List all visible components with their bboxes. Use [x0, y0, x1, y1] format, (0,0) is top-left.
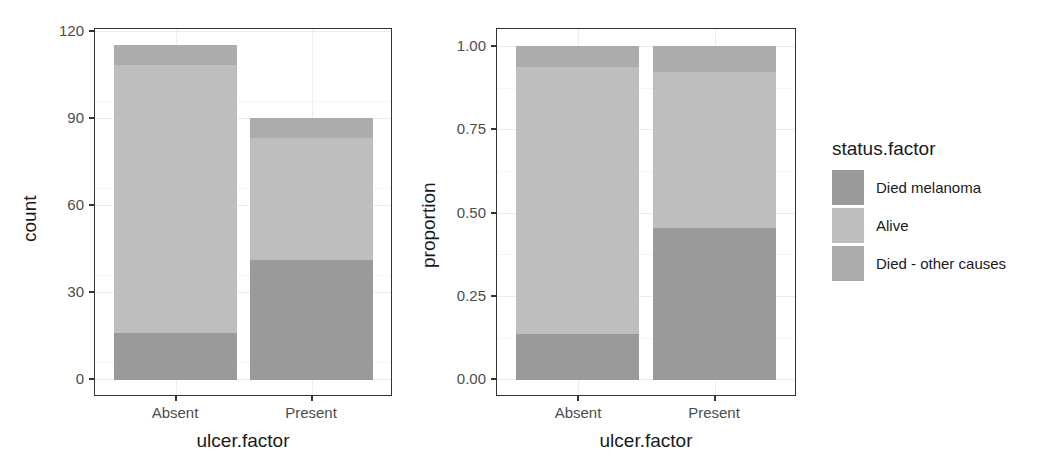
y-axis-title: count	[19, 196, 41, 242]
legend-label: Alive	[876, 217, 909, 234]
segment-alive	[114, 65, 237, 333]
x-tick-label-absent: Absent	[125, 405, 225, 421]
x-tick-label-present: Present	[261, 405, 361, 421]
y-tick-label: 90	[34, 110, 84, 126]
segment-alive	[250, 138, 373, 260]
y-tick-label: 60	[34, 197, 84, 213]
y-tick-label: 0	[34, 371, 84, 387]
legend: status.factor Died melanoma Alive Died -…	[832, 138, 1006, 282]
bar-absent-proportion	[516, 46, 639, 380]
legend-swatch-died-other	[832, 246, 864, 281]
bar-present-count	[250, 118, 373, 380]
y-tick-label: 0.50	[436, 205, 486, 221]
y-tick-label: 0.00	[436, 371, 486, 387]
segment-died-other	[114, 45, 237, 65]
x-tick-label-present: Present	[664, 405, 764, 421]
segment-died-melanoma	[653, 228, 776, 380]
y-tick-label: 30	[34, 284, 84, 300]
count-plot-area	[94, 28, 392, 396]
y-tick-label: 0.75	[436, 121, 486, 137]
y-tick-label: 120	[34, 23, 84, 39]
y-tick-label: 1.00	[436, 38, 486, 54]
segment-alive	[653, 72, 776, 228]
x-axis-title: ulcer.factor	[143, 430, 343, 452]
segment-died-melanoma	[114, 333, 237, 380]
proportion-plot-area	[496, 28, 796, 396]
segment-alive	[516, 67, 639, 334]
segment-died-other	[250, 118, 373, 138]
segment-died-other	[653, 46, 776, 72]
segment-died-melanoma	[516, 334, 639, 380]
y-axis-title: proportion	[418, 182, 440, 268]
y-tick-label: 0.25	[436, 288, 486, 304]
legend-item-alive: Alive	[832, 206, 1006, 244]
legend-label: Died melanoma	[876, 179, 981, 196]
legend-label: Died - other causes	[876, 255, 1006, 272]
legend-item-died-other: Died - other causes	[832, 244, 1006, 282]
x-axis-title: ulcer.factor	[546, 430, 746, 452]
x-tick-label-absent: Absent	[528, 405, 628, 421]
bar-present-proportion	[653, 46, 776, 380]
legend-swatch-alive	[832, 208, 864, 243]
legend-item-died-melanoma: Died melanoma	[832, 168, 1006, 206]
legend-swatch-died-melanoma	[832, 170, 864, 205]
segment-died-melanoma	[250, 260, 373, 380]
legend-title: status.factor	[832, 138, 1006, 160]
segment-died-other	[516, 46, 639, 67]
bar-absent-count	[114, 45, 237, 380]
